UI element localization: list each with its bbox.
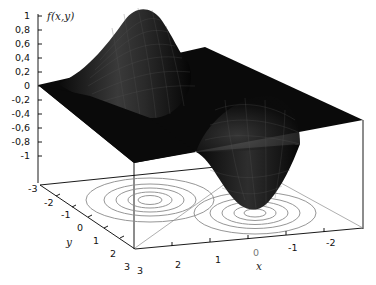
y-tick-label: 0 [77, 222, 83, 233]
surface [38, 8, 363, 210]
y-axis: -3 -2 -1 0 1 2 3 y [28, 183, 130, 272]
y-tick-label: 2 [110, 248, 116, 259]
x-tick-label: 3 [137, 265, 143, 276]
surface-trough [196, 144, 300, 210]
z-tick-label: -0,8 [11, 136, 30, 147]
surface-plot: 1 0,8 0,6 0,4 0,2 0 -0,2 -0,4 -0,6 -0,8 … [0, 0, 376, 285]
z-tick-label: -0,2 [11, 94, 30, 105]
y-tick-label: -2 [44, 197, 53, 208]
y-axis-title: y [65, 236, 73, 248]
x-tick-label: 2 [175, 259, 181, 270]
z-tick-label: 0 [24, 80, 30, 91]
z-tick-label: -0,4 [11, 108, 30, 119]
z-tick-label: 1 [24, 10, 30, 21]
z-tick-label: 0,2 [15, 66, 30, 77]
z-tick-label: 0,4 [15, 52, 30, 63]
z-tick-label: 0,6 [15, 38, 30, 49]
z-tick-label: -0,6 [11, 122, 30, 133]
x-tick-label: 0 [253, 247, 259, 258]
y-tick-label: -1 [61, 209, 70, 220]
x-tick-label: 1 [215, 254, 221, 265]
z-tick-labels: 1 0,8 0,6 0,4 0,2 0 -0,2 -0,4 -0,6 -0,8 … [11, 10, 30, 161]
x-axis-title: x [256, 260, 262, 272]
y-tick-label: 3 [124, 261, 130, 272]
x-axis: 3 2 1 0 -1 -2 x [137, 228, 335, 276]
y-tick-label: 1 [93, 235, 99, 246]
x-tick-label: -1 [288, 242, 297, 253]
z-axis-title: f(x,y) [46, 10, 74, 22]
z-tick-label: 0,8 [15, 24, 30, 35]
y-tick-label: -3 [28, 183, 37, 194]
z-tick-label: -1 [21, 150, 30, 161]
x-tick-label: -2 [326, 237, 335, 248]
